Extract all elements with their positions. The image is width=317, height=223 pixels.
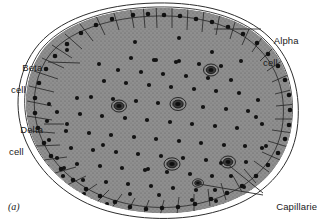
figure-caption: (a) xyxy=(8,201,20,212)
label-alpha-line1: Alpha xyxy=(274,35,299,46)
label-beta-line2: cell xyxy=(11,84,42,95)
label-alpha-cell: Alpha cell xyxy=(263,24,299,90)
capillary xyxy=(112,100,127,112)
label-delta-line2: cell xyxy=(9,146,43,157)
label-capillaries-line1: Capillaries xyxy=(276,201,317,212)
islet-body xyxy=(26,3,297,216)
label-beta-cell: Beta cell xyxy=(11,51,42,117)
alpha-cell-group xyxy=(26,3,297,216)
label-beta-line1: Beta xyxy=(22,62,42,73)
label-delta-line1: Delta xyxy=(20,124,43,135)
label-capillaries: Capillaries xyxy=(265,190,317,223)
label-alpha-line2: cell xyxy=(263,57,299,68)
figure-container: Beta cell Delta cell Alpha cell Capillar… xyxy=(0,0,317,223)
label-delta-cell: Delta cell xyxy=(9,113,43,179)
